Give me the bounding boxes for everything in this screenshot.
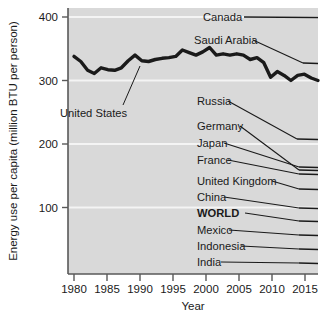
- ytick-label-100: 100: [39, 202, 58, 214]
- x-axis-title: Year: [181, 300, 204, 312]
- ytick-label-400: 400: [39, 11, 58, 23]
- xtick-label-1980: 1980: [61, 283, 87, 295]
- y-axis-title: Energy use per capita (million BTU per p…: [7, 21, 19, 261]
- xtick-label-1995: 1995: [160, 283, 186, 295]
- series-label-united-kingdom: United Kingdom: [197, 175, 277, 187]
- series-label-germany: Germany: [197, 120, 243, 132]
- series-line-canada: [244, 17, 318, 18]
- series-label-russia: Russia: [197, 95, 232, 107]
- series-label-world: WORLD: [197, 207, 239, 219]
- annotation-label-united-states: United States: [60, 107, 128, 119]
- xtick-label-2005: 2005: [226, 283, 252, 295]
- series-label-saudi-arabia: Saudi Arabia: [194, 34, 258, 46]
- ytick-label-300: 300: [39, 75, 58, 87]
- series-label-india: India: [197, 256, 222, 268]
- series-label-canada: Canada: [203, 11, 243, 23]
- xtick-label-2000: 2000: [193, 283, 219, 295]
- xtick-label-2010: 2010: [259, 283, 285, 295]
- series-label-china: China: [197, 191, 227, 203]
- series-label-mexico: Mexico: [197, 224, 232, 236]
- series-label-france: France: [197, 154, 232, 166]
- xtick-label-1990: 1990: [127, 283, 153, 295]
- series-label-japan: Japan: [197, 137, 227, 149]
- chart-container: 400 300 200 100 1980 1985 1990 1995 2000…: [0, 0, 325, 316]
- series-label-indonesia: Indonesia: [197, 240, 246, 252]
- xtick-label-1985: 1985: [94, 283, 120, 295]
- xtick-label-2015: 2015: [292, 283, 318, 295]
- energy-use-line-chart: 400 300 200 100 1980 1985 1990 1995 2000…: [0, 0, 325, 316]
- ytick-label-200: 200: [39, 138, 58, 150]
